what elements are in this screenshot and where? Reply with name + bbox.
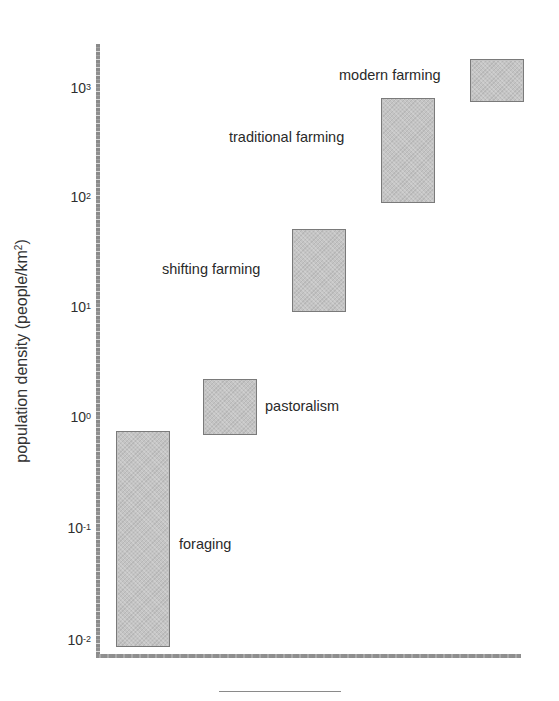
y-tick-0.01: 10-2 [31,632,91,648]
label-modern-farming: modern farming [339,67,441,83]
label-traditional-farming: traditional farming [229,129,344,145]
footer-divider [219,691,341,692]
y-tick-0.1: 10-1 [31,520,91,536]
y-axis-title-close: ) [13,239,30,244]
label-shifting-farming: shifting farming [162,261,260,277]
bar-shifting-farming [292,229,346,312]
y-tick-100: 102 [31,189,91,205]
bar-pastoralism [203,379,257,435]
bar-foraging [116,431,170,647]
y-tick-1000: 103 [31,80,91,96]
y-axis-title-superscript: 2 [13,245,24,251]
y-axis-title: population density (people/km2) [13,239,31,462]
y-axis-title-text: population density (people/km [13,250,30,463]
bar-modern-farming [470,59,524,102]
x-axis-line [96,654,521,658]
population-density-chart: population density (people/km2) 103 102 … [0,0,559,701]
y-axis-line [96,44,100,658]
y-tick-1: 100 [31,409,91,425]
y-tick-10: 101 [31,299,91,315]
bar-traditional-farming [381,98,435,203]
label-pastoralism: pastoralism [265,398,339,414]
label-foraging: foraging [179,536,231,552]
